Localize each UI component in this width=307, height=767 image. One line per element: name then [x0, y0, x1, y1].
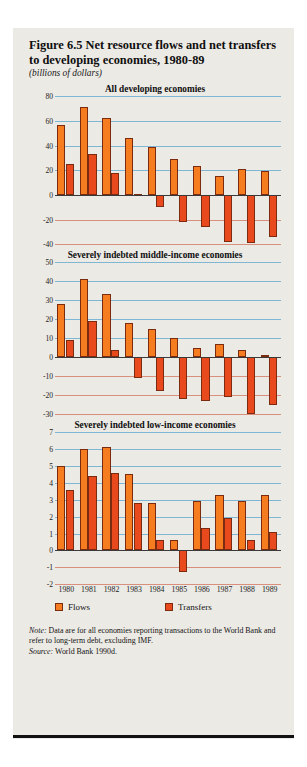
y-tick-label: 20: [29, 166, 53, 175]
bar-transfers-1988: [247, 357, 255, 414]
y-tick-label: -20: [29, 215, 53, 224]
bar-group: [145, 96, 168, 244]
bar-transfers-1987: [224, 357, 232, 397]
bar-transfers-1989: [269, 532, 277, 551]
bar-transfers-1986: [201, 357, 209, 401]
chart-panel-3: Severely indebted low-income economies76…: [29, 420, 281, 584]
y-tick-label: -1: [29, 563, 53, 572]
bar-flows-1980: [57, 125, 65, 195]
y-tick-label: 20: [29, 315, 53, 324]
bar-flows-1983: [125, 138, 133, 195]
bar-transfers-1984: [156, 540, 164, 550]
bar-transfers-1981: [88, 476, 96, 550]
bar-flows-1987: [215, 344, 223, 357]
bar-flows-1985: [170, 159, 178, 195]
chart-panels: All developing economies806040200-20-40S…: [29, 84, 281, 584]
zero-axis-line: [55, 195, 281, 196]
chart-legend: Flows Transfers: [29, 602, 281, 618]
y-tick-label: -2: [29, 580, 53, 589]
bar-flows-1985: [170, 338, 178, 357]
bar-group: [168, 96, 191, 244]
bar-group: [213, 432, 236, 584]
bars-layer-2: [55, 262, 281, 414]
source-text: World Bank 1990d.: [53, 647, 117, 656]
bar-group: [168, 432, 191, 584]
bar-flows-1986: [193, 348, 201, 358]
bar-flows-1983: [125, 474, 133, 550]
x-tick-label-1981: 1981: [81, 585, 97, 594]
figure-subtitle: (billions of dollars): [29, 68, 281, 78]
bar-group: [55, 432, 78, 584]
y-tick-label: 1: [29, 529, 53, 538]
bar-group: [78, 432, 101, 584]
y-tick-label: 60: [29, 116, 53, 125]
note-label: Note:: [29, 626, 47, 635]
note-text: Data are for all economies reporting tra…: [29, 626, 275, 645]
zero-axis-line: [55, 550, 281, 551]
x-tick-label-1980: 1980: [59, 585, 75, 594]
bar-flows-1982: [102, 294, 110, 357]
legend-item-transfers: Transfers: [165, 602, 212, 612]
bar-transfers-1984: [156, 357, 164, 391]
bottom-rule: [13, 735, 294, 738]
y-tick-label: 7: [29, 428, 53, 437]
bar-flows-1982: [102, 118, 110, 194]
bar-group: [191, 96, 214, 244]
figure-note: Note: Data are for all economies reporti…: [29, 626, 281, 657]
plot-area-3: 76543210-1-2: [29, 432, 281, 584]
bar-group: [55, 262, 78, 414]
bar-transfers-1983: [134, 357, 142, 378]
bar-flows-1988: [238, 350, 246, 358]
gridline: [55, 414, 281, 415]
y-tick-label: 80: [29, 92, 53, 101]
bar-transfers-1985: [179, 195, 187, 222]
y-tick-label: 0: [29, 353, 53, 362]
figure-inner: Figure 6.5 Net resource flows and net tr…: [29, 38, 281, 657]
bar-transfers-1989: [269, 357, 277, 405]
bar-flows-1980: [57, 304, 65, 357]
bar-group: [123, 432, 146, 584]
y-tick-label: 3: [29, 495, 53, 504]
x-tick-label-1982: 1982: [104, 585, 120, 594]
bar-transfers-1982: [111, 173, 119, 195]
source-label: Source:: [29, 647, 53, 656]
y-tick-label: 40: [29, 277, 53, 286]
bar-group: [123, 262, 146, 414]
bar-group: [123, 96, 146, 244]
plot-area-1: 806040200-20-40: [29, 96, 281, 244]
x-tick-label-1987: 1987: [217, 585, 233, 594]
bar-group: [258, 96, 281, 244]
y-tick-label: 30: [29, 296, 53, 305]
bar-transfers-1986: [201, 528, 209, 550]
chart-title-2: Severely indebted middle-income economie…: [29, 250, 281, 260]
figure-title: Figure 6.5 Net resource flows and net tr…: [29, 38, 281, 67]
bar-transfers-1985: [179, 357, 187, 399]
bar-transfers-1980: [66, 340, 74, 357]
legend-item-flows: Flows: [55, 602, 90, 612]
bar-group: [236, 432, 259, 584]
y-tick-label: -10: [29, 372, 53, 381]
bar-transfers-1988: [247, 540, 255, 550]
chart-title-3: Severely indebted low-income economies: [29, 420, 281, 430]
chart-panel-2: Severely indebted middle-income economie…: [29, 250, 281, 414]
transfers-swatch-icon: [165, 603, 173, 611]
bar-transfers-1982: [111, 350, 119, 358]
bar-transfers-1985: [179, 550, 187, 572]
bars-layer-1: [55, 96, 281, 244]
bar-flows-1989: [261, 171, 269, 194]
bar-group: [100, 262, 123, 414]
bar-flows-1981: [80, 279, 88, 357]
bar-group: [168, 262, 191, 414]
bar-group: [236, 96, 259, 244]
bar-flows-1986: [193, 501, 201, 550]
bar-flows-1984: [148, 147, 156, 195]
x-tick-label-1984: 1984: [149, 585, 165, 594]
bar-group: [55, 96, 78, 244]
bar-group: [191, 262, 214, 414]
bar-transfers-1981: [88, 321, 96, 357]
y-tick-label: 10: [29, 334, 53, 343]
bar-transfers-1982: [111, 473, 119, 551]
x-tick-label-1983: 1983: [126, 585, 142, 594]
bar-transfers-1980: [66, 164, 74, 195]
bar-flows-1989: [261, 495, 269, 551]
